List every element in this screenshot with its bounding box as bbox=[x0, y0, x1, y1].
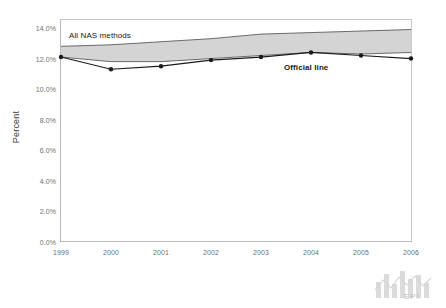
x-tick-label: 2000 bbox=[91, 249, 131, 256]
x-tick-label: 2004 bbox=[291, 249, 331, 256]
data-point-marker bbox=[109, 67, 113, 71]
data-point-marker bbox=[59, 55, 63, 59]
data-point-marker bbox=[309, 50, 313, 54]
x-tick-label: 2002 bbox=[191, 249, 231, 256]
data-point-marker bbox=[359, 53, 363, 57]
x-tick-label: 2006 bbox=[391, 249, 431, 256]
series-layer bbox=[0, 0, 446, 308]
x-tick-label: 2005 bbox=[341, 249, 381, 256]
data-point-marker bbox=[209, 58, 213, 62]
data-point-marker bbox=[159, 64, 163, 68]
data-point-marker bbox=[409, 56, 413, 60]
epi-logo-text: EPI bbox=[404, 292, 420, 301]
annotation-official-line: Official line bbox=[284, 63, 328, 72]
annotation-all-nas-methods: All NAS methods bbox=[69, 31, 131, 40]
chart-container: Percent 0.0% 2.0% 4.0% 6.0% 8.0% 10.0% 1… bbox=[0, 0, 446, 308]
x-tick-label: 1999 bbox=[41, 249, 81, 256]
x-tick-label: 2001 bbox=[141, 249, 181, 256]
data-point-marker bbox=[259, 55, 263, 59]
x-tick-label: 2003 bbox=[241, 249, 281, 256]
